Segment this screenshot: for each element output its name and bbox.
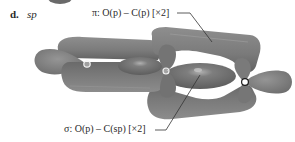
orbital-figure (0, 0, 295, 142)
orbital-diagram: d. sp π: O(p) – C(p) [×2] σ: O(p) – C(sp… (0, 0, 295, 142)
oxygen-right-atom (242, 79, 249, 86)
carbon-sp-lobe-inner (118, 57, 162, 75)
carbon-atom (163, 68, 169, 74)
oxygen-right-upper-lobe (234, 58, 250, 82)
sigma-bond-label: σ: O(p) – C(sp) [×2] (64, 123, 146, 134)
oxygen-left-atom (84, 61, 90, 67)
hybridization-label: sp (27, 8, 37, 20)
pi-bond-label: π: O(p) – C(p) [×2] (92, 7, 169, 18)
partial-lobe (48, 0, 72, 4)
panel-letter: d. (10, 8, 19, 20)
highlight (194, 68, 202, 72)
